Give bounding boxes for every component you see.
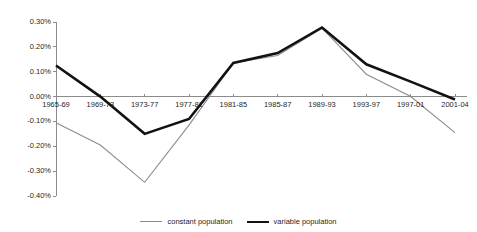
x-axis-category-label: 1997-01 — [388, 100, 434, 109]
legend-label-constant-population: constant population — [167, 217, 232, 226]
y-axis-tick-label: 0.10% — [15, 67, 51, 76]
x-axis-category-label: 2001-04 — [432, 100, 477, 109]
y-axis-tick-label: -0.10% — [15, 116, 51, 125]
x-axis-category-label: 1993-97 — [343, 100, 389, 109]
legend-item-constant-population: constant population — [140, 217, 232, 226]
x-axis-category-label: 1965-69 — [33, 100, 79, 109]
series-line-variable-population — [56, 27, 455, 133]
legend-item-variable-population: variable population — [247, 217, 337, 226]
x-axis-category-label: 1981-85 — [210, 100, 256, 109]
x-axis-category-label: 1969-73 — [77, 100, 123, 109]
y-axis-tick-label: -0.40% — [15, 191, 51, 200]
legend-label-variable-population: variable population — [274, 217, 337, 226]
y-axis-tick-label: 0.30% — [15, 17, 51, 26]
y-axis-tick-label: -0.20% — [15, 141, 51, 150]
x-axis-category-label: 1989-93 — [299, 100, 345, 109]
y-axis-tick-label: 0.20% — [15, 42, 51, 51]
plot-area — [0, 0, 477, 232]
x-axis-category-label: 1985-87 — [255, 100, 301, 109]
y-axis-tick-label: -0.30% — [15, 166, 51, 175]
legend-swatch-constant-population — [140, 221, 162, 222]
line-chart: 0.30%0.20%0.10%0.00%-0.10%-0.20%-0.30%-0… — [0, 0, 477, 232]
x-axis-category-label: 1977-81 — [166, 100, 212, 109]
chart-legend: constant population variable population — [0, 217, 477, 226]
x-axis-category-label: 1973-77 — [122, 100, 168, 109]
legend-swatch-variable-population — [247, 221, 269, 223]
